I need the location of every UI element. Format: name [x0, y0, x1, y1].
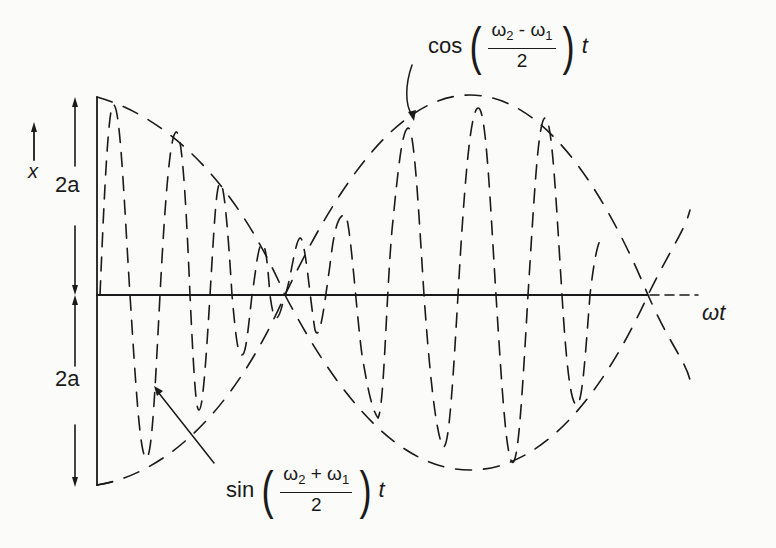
carrier-formula: sin ( ω2 + ω1 2 ) t [226, 462, 385, 517]
omega-t-axis-label: ωt [702, 300, 725, 326]
x-axis-label: x [28, 160, 38, 183]
x-direction-arrow [31, 122, 37, 160]
beat-diagram-canvas [0, 0, 776, 548]
envelope-pointer [407, 65, 416, 121]
carrier-oscillation [100, 105, 602, 463]
envelope-formula: cos ( ω2 - ω1 2 ) t [428, 18, 588, 73]
upper-amplitude-label: 2a [55, 172, 79, 198]
lower-amplitude-label: 2a [55, 366, 79, 392]
carrier-pointer [154, 386, 214, 463]
